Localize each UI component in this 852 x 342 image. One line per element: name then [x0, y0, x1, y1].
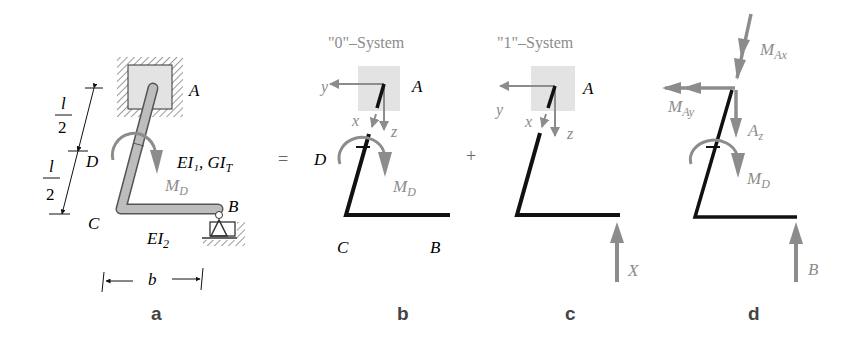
wall-hatch-B: [237, 222, 245, 246]
moment-arrowhead-MD: [731, 153, 745, 178]
axis-y-label: y: [494, 101, 504, 119]
axis-y-label: y: [319, 78, 329, 96]
moment-MAx-label: MAx: [759, 40, 788, 62]
dim-b-label: b: [148, 270, 157, 289]
dim-l-denominator-2: 2: [46, 185, 55, 204]
axis-z-label: z: [566, 125, 574, 142]
axis-x-label: x: [351, 112, 359, 129]
moment-MAy-label: MAy: [667, 97, 695, 119]
axis-z-label: z: [390, 123, 398, 140]
dim-line-upper: [78, 88, 94, 151]
axis-x-arrow: [372, 114, 376, 127]
point-C-label: C: [88, 214, 100, 233]
dim-tick: [102, 272, 104, 292]
force-X-label: X: [627, 261, 639, 280]
point-D-label: D: [313, 150, 327, 169]
ground-hatch: [203, 240, 237, 246]
panel-c: "1"–System A y x z X c: [494, 34, 639, 324]
point-B-label: B: [228, 197, 239, 216]
point-C-label: C: [337, 238, 349, 257]
dim-tick: [201, 268, 203, 290]
plus-sign: +: [466, 146, 476, 166]
panel-c-title: "1"–System: [497, 34, 574, 52]
beam-member: [695, 90, 797, 217]
force-Az-label: Az: [747, 121, 763, 143]
diagram-canvas: A B C D EI₁, GIT EI2 MD l 2 l 2 b a = + …: [0, 0, 852, 342]
moment-MD-label: MD: [392, 177, 416, 199]
axis-x-arrow: [542, 114, 546, 127]
panel-c-caption: c: [565, 303, 576, 324]
dim-l-numerator-2: l: [49, 157, 54, 176]
panel-a-caption: a: [151, 303, 162, 324]
point-A-label: A: [582, 79, 594, 98]
axis-x-label: x: [524, 113, 532, 130]
pin-B: [216, 212, 223, 219]
panel-b: "0"–System A y x z D MD C B b: [313, 34, 450, 324]
moment-arrowhead-MD: [378, 152, 392, 177]
moment-MD-label: MD: [164, 176, 188, 198]
dim-l-numerator: l: [61, 94, 66, 113]
panel-b-title: "0"–System: [328, 34, 405, 52]
beam-member: [517, 133, 620, 215]
force-B-arrowhead: [789, 222, 803, 244]
equals-sign: =: [278, 149, 288, 169]
panel-a: [49, 57, 245, 292]
dim-line-lower: [62, 151, 78, 214]
point-D-label: D: [85, 152, 99, 171]
panel-d: MAx MAy Az MD B d: [662, 14, 819, 324]
force-X-arrowhead: [610, 222, 624, 243]
stiffness-EI2: EI2: [146, 229, 169, 251]
moment-MAy-arrowhead-1: [662, 82, 681, 94]
moment-MD-label: MD: [746, 169, 770, 191]
dim-l-denominator: 2: [58, 118, 67, 137]
moment-MAy-arrowhead-2: [682, 82, 701, 94]
moment-arrowhead-MD: [150, 150, 163, 174]
panel-d-caption: d: [748, 303, 760, 324]
point-B-label: B: [430, 238, 441, 257]
stiffness-EI1-GIT: EI₁, GIT: [176, 153, 233, 175]
force-Az-arrowhead: [730, 118, 742, 138]
force-B-label: B: [808, 260, 819, 279]
point-A-label: A: [411, 77, 423, 96]
panel-b-caption: b: [397, 303, 409, 324]
point-A-label: A: [188, 81, 200, 100]
moment-MAx-arrowhead-1: [738, 38, 750, 58]
